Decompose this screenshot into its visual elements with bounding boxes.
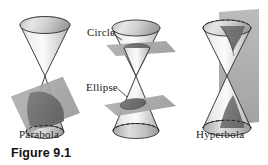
conic-sections-figure — [0, 0, 268, 165]
figure-caption: Figure 9.1 — [11, 146, 71, 160]
circle-upper-nappe-lower — [124, 48, 150, 76]
label-hyperbola: Hyperbola — [196, 128, 244, 140]
parabola-top-rim — [20, 17, 70, 34]
hyperbola-diagram — [203, 9, 259, 136]
label-circle: Circle — [87, 26, 115, 38]
label-parabola: Parabola — [19, 128, 59, 140]
parabola-diagram — [11, 17, 80, 139]
label-ellipse: Ellipse — [86, 81, 118, 93]
ellipse-leader-line — [118, 89, 127, 97]
